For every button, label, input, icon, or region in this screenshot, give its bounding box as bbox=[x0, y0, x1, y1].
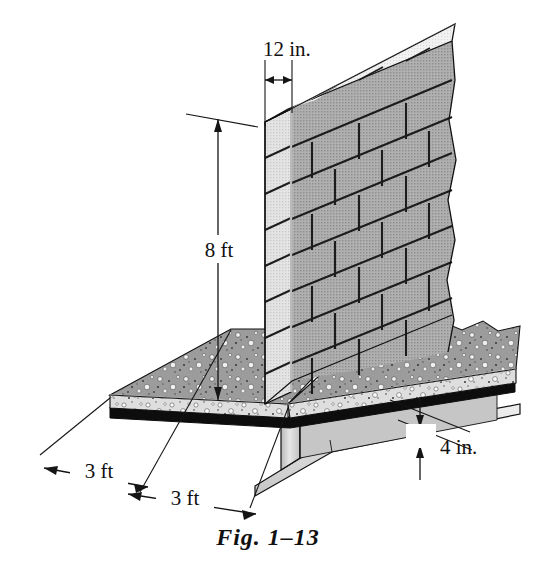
dimension-label-12-in: 12 in. bbox=[263, 37, 311, 61]
dimension-label-8-ft: 8 ft bbox=[205, 238, 234, 262]
figure-container: 12 in. 8 ft 3 ft bbox=[0, 0, 537, 565]
figure-caption: Fig. 1–13 bbox=[215, 524, 320, 550]
dimension-label-3-ft-right: 3 ft bbox=[171, 486, 200, 510]
label-gap-4in bbox=[406, 424, 436, 448]
dimension-label-4-in: 4 in. bbox=[440, 435, 477, 459]
dimension-label-3-ft-left: 3 ft bbox=[85, 459, 114, 483]
figure-drawing: 12 in. 8 ft 3 ft bbox=[0, 0, 537, 565]
